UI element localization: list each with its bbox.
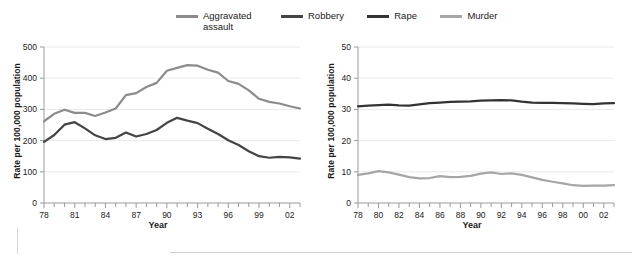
legend-swatch-aggravated-assault — [176, 15, 198, 18]
legend-item-murder[interactable]: Murder — [440, 10, 506, 21]
svg-text:40: 40 — [342, 73, 352, 83]
svg-text:200: 200 — [23, 136, 37, 146]
x-axis-label-left: Year — [8, 220, 308, 230]
legend-swatch-rape — [367, 15, 389, 18]
svg-text:02: 02 — [599, 210, 609, 218]
svg-text:93: 93 — [193, 210, 203, 218]
svg-text:96: 96 — [538, 210, 548, 218]
svg-text:92: 92 — [497, 210, 507, 218]
chart-panel-right: Rate per 100,000 population 010203040507… — [322, 38, 622, 246]
legend-label-robbery: Robbery — [308, 10, 344, 21]
svg-text:98: 98 — [558, 210, 568, 218]
x-axis-label-right: Year — [322, 220, 622, 230]
legend-label-aggravated-assault: Aggravated assault — [203, 10, 252, 32]
svg-text:88: 88 — [456, 210, 466, 218]
chart-panel-left: Rate per 100,000 population 010020030040… — [8, 38, 308, 246]
svg-text:00: 00 — [579, 210, 589, 218]
svg-text:90: 90 — [476, 210, 486, 218]
svg-text:500: 500 — [23, 42, 37, 52]
svg-text:78: 78 — [39, 210, 49, 218]
legend-item-aggravated-assault[interactable]: Aggravated assault — [176, 10, 281, 32]
svg-text:84: 84 — [415, 210, 425, 218]
legend-swatch-robbery — [281, 15, 303, 18]
svg-text:99: 99 — [254, 210, 264, 218]
legend-label-rape: Rape — [394, 10, 417, 21]
plot-area-left: 0100200300400500788184879093969902 — [8, 38, 308, 218]
svg-text:82: 82 — [394, 210, 404, 218]
svg-text:50: 50 — [342, 42, 352, 52]
svg-text:81: 81 — [70, 210, 80, 218]
svg-text:10: 10 — [342, 167, 352, 177]
svg-text:80: 80 — [374, 210, 384, 218]
svg-text:30: 30 — [342, 104, 352, 114]
bottom-divider — [170, 252, 632, 253]
svg-text:100: 100 — [23, 167, 37, 177]
svg-text:0: 0 — [346, 198, 351, 208]
svg-text:0: 0 — [32, 198, 37, 208]
svg-text:87: 87 — [131, 210, 141, 218]
svg-text:78: 78 — [353, 210, 363, 218]
svg-text:94: 94 — [517, 210, 527, 218]
legend-item-robbery[interactable]: Robbery — [281, 10, 367, 21]
legend-label-murder: Murder — [467, 10, 497, 21]
plot-area-right: 0102030405078808284868890929496980002 — [322, 38, 622, 218]
svg-text:86: 86 — [435, 210, 445, 218]
legend-swatch-murder — [440, 15, 462, 18]
svg-text:02: 02 — [285, 210, 295, 218]
svg-text:90: 90 — [162, 210, 172, 218]
svg-text:400: 400 — [23, 73, 37, 83]
legend-item-rape[interactable]: Rape — [367, 10, 440, 21]
svg-text:96: 96 — [224, 210, 234, 218]
svg-text:20: 20 — [342, 136, 352, 146]
svg-text:300: 300 — [23, 104, 37, 114]
crime-rate-figure: Aggravated assault Robbery Rape Murder R… — [0, 0, 640, 261]
svg-text:84: 84 — [101, 210, 111, 218]
